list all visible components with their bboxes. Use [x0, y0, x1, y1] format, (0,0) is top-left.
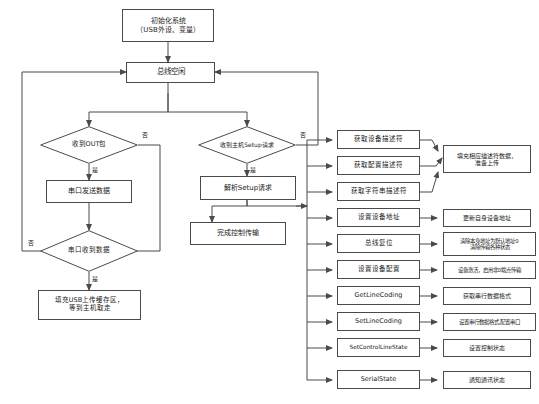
- decision-uart-received-data: 串口收到数据: [40, 230, 138, 272]
- edge-label-setup-yes: 是: [250, 167, 256, 173]
- node-notify-comm-state-label: 通知通讯状态: [469, 376, 505, 383]
- node-bus-reset: 总线复位: [337, 234, 420, 253]
- node-parse-setup-request: 解析Setup请求: [200, 176, 296, 200]
- node-uart-send-data: 串口发送数据: [46, 180, 132, 203]
- node-get-string-descriptor: 获取字符串描述符: [337, 182, 420, 201]
- edge-label-uart-yes: 是: [92, 276, 98, 282]
- decision-recv-setup-request: 收到主机Setup请求: [198, 126, 296, 164]
- decision-recv-out-packet: 收到OUT包: [40, 126, 138, 164]
- node-get-serial-format: 获取串行数据格式: [443, 287, 531, 305]
- node-get-device-descriptor-label: 获取设备描述符: [354, 136, 403, 144]
- node-clear-address-line2: 清除传输各种状态: [470, 244, 510, 250]
- node-notify-comm-state: 通知通讯状态: [443, 371, 531, 389]
- node-finish-ctrl-label: 完成控制传输: [217, 229, 259, 237]
- node-clear-address-and-state: 清除本身地址为默认地址0 清除传输各种状态: [443, 232, 536, 256]
- edge-label-uart-no: 否: [28, 240, 34, 246]
- node-parse-setup-label: 解析Setup请求: [224, 184, 272, 192]
- node-uart-send-label: 串口发送数据: [68, 187, 110, 195]
- node-set-device-address: 设置设备地址: [337, 208, 420, 227]
- node-bus-idle-label: 总线空闲: [157, 68, 185, 77]
- node-finish-control-transfer: 完成控制传输: [190, 222, 286, 245]
- node-set-device-config: 设置设备配置: [337, 260, 420, 279]
- node-set-line-coding: SetLineCoding: [337, 312, 420, 331]
- node-init-line2: （USB外设、变量）: [136, 26, 199, 34]
- node-set-control-line-state: SetControlLineState: [337, 338, 420, 357]
- node-get-string-descriptor-label: 获取字符串描述符: [351, 188, 407, 196]
- edge-label-setup-no: 否: [300, 132, 306, 138]
- node-set-control-state: 设置控制状态: [443, 339, 531, 357]
- node-get-serial-format-label: 获取串行数据格式: [463, 292, 511, 299]
- node-get-line-coding-label: GetLineCoding: [355, 292, 403, 300]
- node-set-serial-format: 设置串行数据格式,配置串口: [443, 313, 536, 331]
- edge-devdesc-to-fill: [420, 140, 438, 151]
- flowchart-canvas: 初始化系统 （USB外设、变量） 总线空闲 收到OUT包 串口发送数据 串口收到…: [0, 0, 539, 404]
- node-fill-descriptor-data: 填充相应描述符数据， 准备上传: [443, 145, 531, 173]
- node-bus-idle: 总线空闲: [126, 62, 215, 83]
- node-set-device-address-label: 设置设备地址: [358, 214, 400, 222]
- node-fill-usb-line2: 等到主机取走: [69, 305, 111, 313]
- node-set-line-coding-label: SetLineCoding: [355, 318, 402, 326]
- node-update-device-address-label: 更新自身设备地址: [463, 214, 511, 221]
- node-serial-state-label: SerialState: [361, 376, 397, 384]
- node-fill-descriptor-line2: 准备上传: [475, 159, 499, 166]
- node-fill-usb-buffer: 填充USB上传缓存区， 等到主机取走: [38, 290, 141, 320]
- edge-label-out-no: 否: [142, 132, 148, 138]
- node-set-device-config-label: 设置设备配置: [358, 266, 400, 274]
- node-set-control-line-state-label: SetControlLineState: [350, 344, 408, 351]
- node-update-device-address: 更新自身设备地址: [443, 209, 531, 227]
- node-get-device-descriptor: 获取设备描述符: [337, 130, 420, 149]
- edge-strdesc-to-fill: [420, 172, 438, 192]
- decision-recv-out-label: 收到OUT包: [72, 141, 107, 148]
- node-get-line-coding: GetLineCoding: [337, 286, 420, 305]
- node-serial-state: SerialState: [337, 370, 420, 389]
- node-init-system: 初始化系统 （USB外设、变量）: [122, 9, 214, 42]
- node-set-control-state-label: 设置控制状态: [469, 344, 505, 351]
- node-device-activate-label: 设备激活，启用非0端点传输: [458, 267, 521, 273]
- node-init-line1: 初始化系统: [151, 17, 186, 25]
- node-fill-descriptor-line1: 填充相应描述符数据，: [457, 152, 517, 159]
- node-get-config-descriptor-label: 获取配置描述符: [354, 162, 403, 170]
- node-bus-reset-label: 总线复位: [365, 240, 393, 248]
- decision-uart-recv-label: 串口收到数据: [68, 247, 110, 254]
- decision-recv-setup-label: 收到主机Setup请求: [220, 142, 273, 149]
- node-set-serial-format-label: 设置串行数据格式,配置串口: [459, 319, 521, 325]
- node-get-config-descriptor: 获取配置描述符: [337, 156, 420, 175]
- node-device-activate: 设备激活，启用非0端点传输: [443, 261, 536, 279]
- edge-label-out-yes: 是: [92, 167, 98, 173]
- edge-cfgdesc-to-fill: [420, 158, 442, 166]
